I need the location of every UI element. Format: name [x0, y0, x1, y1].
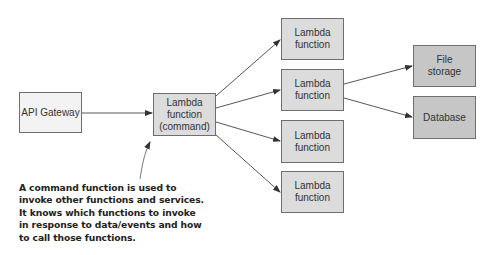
- annotation-pointer: [140, 142, 150, 179]
- lambda-node-3: Lambda function: [281, 120, 344, 163]
- annotation-note: A command function is used to invoke oth…: [19, 182, 249, 244]
- annotation-line-4: in response to data/events and how: [19, 219, 249, 231]
- file-storage-label-line1: File: [428, 54, 461, 66]
- lambda-2-label-line2: function: [294, 90, 330, 102]
- file-storage-label-line2: storage: [428, 66, 461, 78]
- arrow-command-to-lambda2: [216, 90, 280, 108]
- annotation-line-2: invoke other functions and services.: [19, 194, 249, 206]
- lambda-1-label-line1: Lambda: [294, 27, 330, 39]
- annotation-line-1: A command function is used to: [19, 182, 249, 194]
- lambda-1-label-line2: function: [294, 39, 330, 51]
- lambda-4-label-line2: function: [294, 192, 330, 204]
- lambda-node-1: Lambda function: [281, 18, 344, 60]
- arrow-lambda2-to-database: [344, 98, 412, 117]
- lambda-node-4: Lambda function: [281, 171, 344, 213]
- lambda-4-label-line1: Lambda: [294, 180, 330, 192]
- lambda-3-label-line1: Lambda: [294, 130, 330, 142]
- arrow-command-to-lambda3: [216, 122, 280, 141]
- database-node: Database: [413, 96, 476, 139]
- annotation-line-5: to call those functions.: [19, 232, 249, 244]
- command-lambda-label-line3: (command): [159, 121, 210, 133]
- lambda-node-2: Lambda function: [281, 69, 344, 111]
- api-gateway-node: API Gateway: [19, 92, 82, 133]
- command-lambda-label-line2: function: [159, 109, 210, 121]
- file-storage-node: File storage: [413, 45, 476, 87]
- api-gateway-label: API Gateway: [21, 107, 79, 119]
- command-lambda-label-line1: Lambda: [159, 97, 210, 109]
- annotation-line-3: It knows which functions to invoke: [19, 207, 249, 219]
- lambda-2-label-line1: Lambda: [294, 78, 330, 90]
- command-lambda-node: Lambda function (command): [153, 93, 216, 136]
- arrow-command-to-lambda1: [216, 40, 280, 96]
- arrow-lambda2-to-file-storage: [344, 66, 412, 84]
- database-label: Database: [423, 112, 466, 124]
- lambda-3-label-line2: function: [294, 142, 330, 154]
